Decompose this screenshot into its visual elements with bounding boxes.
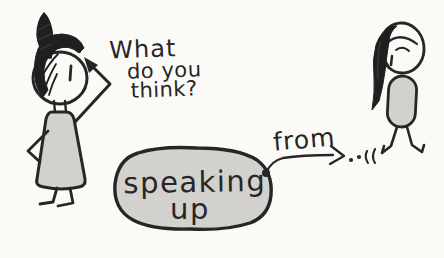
left-figure-left-leg xyxy=(40,188,57,204)
speech-blob: speaking up xyxy=(115,148,271,230)
from-arrow: from xyxy=(266,122,375,173)
left-figure-eye xyxy=(70,66,71,80)
arrow-shaft xyxy=(266,155,333,173)
left-figure-right-leg xyxy=(58,188,73,206)
arrow-trailing-marks xyxy=(349,149,375,163)
arrow-label: from xyxy=(272,122,336,156)
right-figure-left-leg xyxy=(382,127,397,153)
question-line-3: think? xyxy=(130,76,198,102)
trailing-tick-2 xyxy=(373,149,375,163)
right-figure-right-leg xyxy=(407,127,424,152)
sketch-canvas: What do you think? speaking up from xyxy=(0,0,444,258)
speech-blob-label-line-2: up xyxy=(170,192,210,226)
right-figure-eye xyxy=(391,56,392,65)
trailing-tick-1 xyxy=(366,151,368,163)
left-figure-dress xyxy=(37,112,85,189)
sketch-drawing: What do you think? speaking up from xyxy=(0,0,444,258)
left-figure xyxy=(28,13,110,206)
right-figure-body xyxy=(387,75,418,127)
trailing-dot-1 xyxy=(349,158,353,162)
question-text: What do you think? xyxy=(109,33,203,103)
trailing-dot-2 xyxy=(357,155,361,159)
right-figure xyxy=(372,21,427,153)
